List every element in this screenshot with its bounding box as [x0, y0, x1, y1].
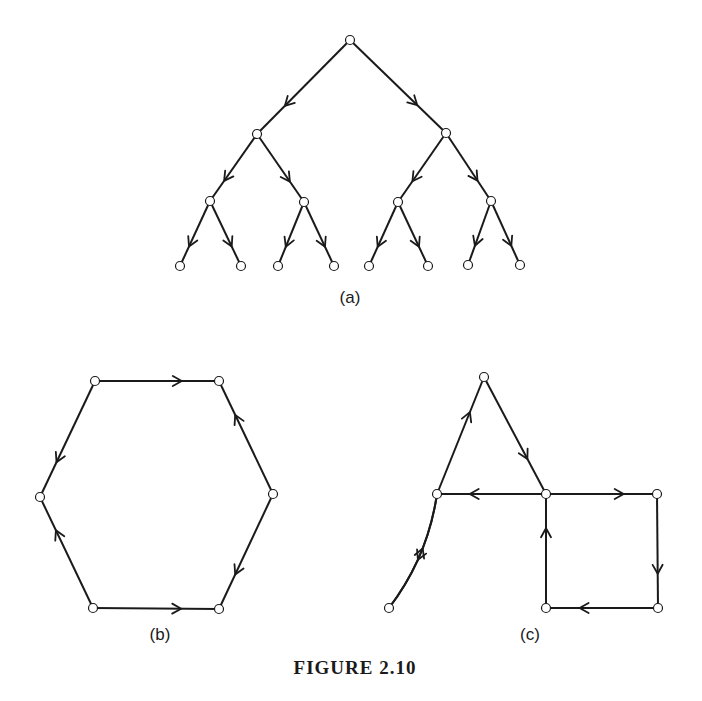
- graph-vertex: [269, 490, 278, 499]
- graph-vertex: [274, 262, 283, 271]
- graph-vertex: [36, 493, 45, 502]
- directed-edge: [398, 133, 446, 202]
- graph-vertex: [464, 261, 473, 270]
- graph-vertex: [330, 262, 339, 271]
- graph-vertex: [654, 604, 663, 613]
- directed-edge: [657, 494, 658, 608]
- directed-edge: [369, 202, 398, 266]
- graph-vertex: [487, 197, 496, 206]
- directed-edge: [257, 40, 350, 134]
- graph-vertex: [300, 198, 309, 207]
- panel-a-tree: [176, 36, 525, 271]
- directed-edge: [210, 134, 257, 201]
- directed-edge: [437, 377, 484, 494]
- graph-vertex: [542, 604, 551, 613]
- directed-edge: [350, 40, 446, 133]
- graph-vertex: [516, 261, 525, 270]
- curved-directed-edge: [389, 494, 437, 608]
- graph-vertex: [206, 197, 215, 206]
- graph-vertex: [385, 604, 394, 613]
- curved-directed-edge: [389, 494, 437, 608]
- panel-c-directed-graph: [385, 373, 663, 614]
- graph-vertex: [89, 604, 98, 613]
- panel-a-label: (a): [340, 288, 361, 307]
- graph-vertex: [433, 490, 442, 499]
- directed-edge: [40, 381, 95, 497]
- graph-vertex: [346, 36, 355, 45]
- directed-edge: [40, 497, 93, 608]
- figure-caption: FIGURE 2.10: [294, 657, 417, 678]
- directed-edge: [491, 201, 520, 265]
- graph-vertex: [542, 490, 551, 499]
- graph-vertex: [424, 262, 433, 271]
- directed-edge: [257, 134, 304, 202]
- graph-vertex: [91, 377, 100, 386]
- directed-edge: [219, 381, 273, 494]
- panel-b-label: (b): [150, 625, 171, 644]
- graph-vertex: [442, 129, 451, 138]
- graph-vertex: [176, 262, 185, 271]
- figure-canvas: (a) (b) (c) FIGURE 2.10: [0, 0, 702, 701]
- graph-vertex: [215, 605, 224, 614]
- directed-edge: [278, 202, 304, 266]
- graph-vertex: [653, 490, 662, 499]
- graph-vertex: [480, 373, 489, 382]
- directed-edge: [468, 201, 491, 265]
- directed-edge: [484, 377, 546, 494]
- directed-edge: [219, 494, 273, 609]
- graph-vertex: [365, 262, 374, 271]
- directed-edge: [93, 608, 219, 609]
- graph-vertex: [237, 262, 246, 271]
- graph-vertex: [253, 130, 262, 139]
- panel-c-label: (c): [520, 625, 540, 644]
- directed-edge: [304, 202, 334, 266]
- panel-b-hexagon-graph: [36, 376, 278, 614]
- directed-edge: [180, 201, 210, 266]
- directed-edge: [398, 202, 428, 266]
- directed-edge: [210, 201, 241, 266]
- graph-vertex: [394, 198, 403, 207]
- directed-edge: [446, 133, 491, 201]
- graph-vertex: [215, 377, 224, 386]
